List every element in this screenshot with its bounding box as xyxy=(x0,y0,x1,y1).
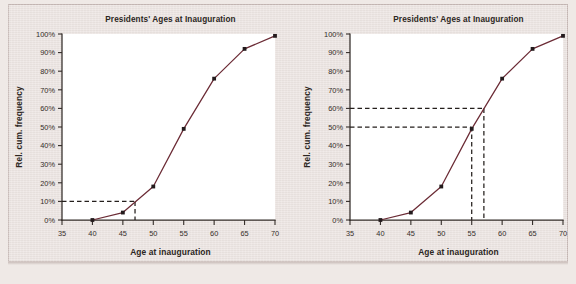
data-point xyxy=(379,218,383,222)
y-axis-title: Rel. cum. frequency xyxy=(14,86,24,168)
plot-area-background xyxy=(62,34,275,220)
x-tick-label: 65 xyxy=(240,229,248,238)
data-point xyxy=(182,127,186,131)
data-point xyxy=(151,185,155,189)
y-tick-label: 60% xyxy=(40,104,55,113)
y-tick-label: 10% xyxy=(328,197,343,206)
chart-panel-right: Presidents' Ages at Inauguration0%10%20%… xyxy=(288,4,576,260)
data-point xyxy=(212,77,216,81)
y-tick-label: 0% xyxy=(44,216,55,225)
data-point xyxy=(470,127,474,131)
y-tick-label: 0% xyxy=(332,216,343,225)
x-axis-title: Age at inauguration xyxy=(418,247,499,257)
x-tick-label: 60 xyxy=(210,229,218,238)
data-point xyxy=(243,47,247,51)
y-tick-label: 100% xyxy=(36,30,55,39)
y-tick-label: 30% xyxy=(328,160,343,169)
data-point xyxy=(91,218,95,222)
y-tick-label: 90% xyxy=(40,48,55,57)
x-tick-label: 60 xyxy=(498,229,506,238)
x-tick-label: 50 xyxy=(149,229,157,238)
y-tick-label: 80% xyxy=(328,67,343,76)
y-tick-label: 50% xyxy=(328,123,343,132)
y-tick-label: 90% xyxy=(328,48,343,57)
x-tick-label: 40 xyxy=(376,229,384,238)
data-point xyxy=(561,34,565,38)
x-tick-label: 40 xyxy=(88,229,96,238)
data-point xyxy=(500,77,504,81)
y-tick-label: 40% xyxy=(40,141,55,150)
y-tick-label: 100% xyxy=(324,30,343,39)
ogive-chart-right: Presidents' Ages at Inauguration0%10%20%… xyxy=(288,4,576,260)
x-tick-label: 55 xyxy=(468,229,476,238)
x-tick-label: 65 xyxy=(528,229,536,238)
x-tick-label: 35 xyxy=(58,229,66,238)
y-tick-label: 20% xyxy=(40,179,55,188)
data-point xyxy=(439,185,443,189)
y-tick-label: 50% xyxy=(40,123,55,132)
data-point xyxy=(531,47,535,51)
chart-title: Presidents' Ages at Inauguration xyxy=(105,15,235,24)
y-axis-title: Rel. cum. frequency xyxy=(302,86,312,168)
data-point xyxy=(273,34,277,38)
x-tick-label: 70 xyxy=(271,229,279,238)
chart-panel-left: Presidents' Ages at Inauguration0%10%20%… xyxy=(0,4,288,260)
figure-container: Presidents' Ages at Inauguration0%10%20%… xyxy=(0,0,576,284)
x-tick-label: 70 xyxy=(559,229,567,238)
y-tick-label: 80% xyxy=(40,67,55,76)
x-tick-label: 35 xyxy=(346,229,354,238)
y-tick-label: 10% xyxy=(40,197,55,206)
x-tick-label: 55 xyxy=(180,229,188,238)
x-tick-label: 45 xyxy=(407,229,415,238)
y-tick-label: 70% xyxy=(328,86,343,95)
x-tick-label: 45 xyxy=(119,229,127,238)
y-tick-label: 70% xyxy=(40,86,55,95)
data-point xyxy=(409,211,413,215)
x-axis-title: Age at inauguration xyxy=(130,247,211,257)
ogive-chart-left: Presidents' Ages at Inauguration0%10%20%… xyxy=(0,4,288,260)
x-tick-label: 50 xyxy=(437,229,445,238)
chart-title: Presidents' Ages at Inauguration xyxy=(393,15,523,24)
y-tick-label: 60% xyxy=(328,104,343,113)
y-tick-label: 20% xyxy=(328,179,343,188)
y-tick-label: 40% xyxy=(328,141,343,150)
data-point xyxy=(121,211,125,215)
y-tick-label: 30% xyxy=(40,160,55,169)
